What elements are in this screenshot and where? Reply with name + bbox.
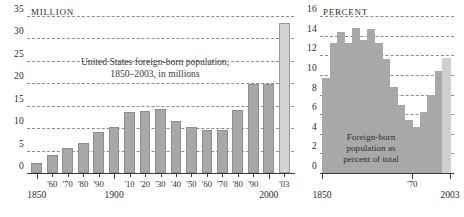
left-tick-'80 (238, 173, 239, 177)
bar-'90 (248, 84, 259, 173)
left-y-tick-5: 5 (0, 140, 24, 150)
bar-'03 (279, 23, 290, 173)
right-tick-1850 (322, 173, 323, 179)
left-tick-'70 (68, 173, 69, 177)
left-y-tick-20: 20 (0, 72, 24, 82)
left-tick-'70 (222, 173, 223, 177)
bar-'40 (171, 121, 182, 173)
bar-'50 (186, 127, 197, 173)
left-y-tick-30: 30 (0, 27, 24, 37)
bar-'90 (93, 132, 104, 173)
right-chart-caption-line3: percent of total (330, 154, 412, 165)
left-tick-'20 (145, 173, 146, 177)
left-y-tick-15: 15 (0, 95, 24, 105)
bar-1850 (31, 163, 42, 173)
chart-foreign-born-millions: MILLION 05101520253035 United States for… (0, 0, 300, 217)
right-chart-caption-line1: Foreign-born (330, 132, 412, 143)
right-y-tick-14: 14 (300, 25, 317, 35)
left-tick-'03 (284, 173, 285, 177)
chart-foreign-born-percent: PERCENT 0246810121416 Foreign-born popul… (300, 0, 459, 217)
right-x-label-'70: '70 (394, 180, 430, 189)
bar-'70 (217, 130, 228, 173)
right-chart-caption-line2: population as (330, 143, 412, 154)
left-y-tick-0: 0 (0, 162, 24, 172)
bar-1900 (109, 127, 120, 173)
bar-'20 (140, 111, 151, 173)
left-chart-plot-area (29, 16, 292, 173)
right-chart-caption: Foreign-born population as percent of to… (330, 132, 412, 165)
bar-'60 (47, 155, 58, 173)
right-x-label-2003: 2003 (432, 190, 464, 200)
right-x-label-1850: 1850 (304, 190, 340, 200)
bar-'60 (202, 130, 213, 174)
left-tick-2000 (269, 173, 270, 179)
left-x-label-'03: '03 (266, 180, 302, 189)
bar-'10 (124, 112, 135, 173)
left-x-label-1900: 1900 (96, 190, 132, 200)
left-x-label-2000: 2000 (251, 190, 287, 200)
left-tick-'50 (191, 173, 192, 177)
left-tick-'40 (176, 173, 177, 177)
left-y-tick-10: 10 (0, 117, 24, 127)
right-y-tick-10: 10 (300, 64, 317, 74)
left-tick-'80 (83, 173, 84, 177)
left-tick-'10 (130, 173, 131, 177)
bar-2000 (263, 84, 274, 173)
right-chart-x-axis-line (320, 173, 454, 174)
left-tick-'60 (52, 173, 53, 177)
left-tick-'90 (99, 173, 100, 177)
bar-'80 (232, 110, 243, 173)
left-y-tick-25: 25 (0, 50, 24, 60)
left-tick-1850 (37, 173, 38, 179)
bar-'70 (62, 148, 73, 173)
right-y-tick-0: 0 (300, 162, 317, 172)
bar-'80 (78, 143, 89, 173)
right-y-tick-8: 8 (300, 84, 317, 94)
right-y-tick-6: 6 (300, 103, 317, 113)
right-y-tick-12: 12 (300, 44, 317, 54)
pct-bar-2003 (442, 58, 450, 173)
right-y-tick-2: 2 (300, 142, 317, 152)
right-y-tick-16: 16 (300, 5, 317, 15)
left-tick-1900 (114, 173, 115, 179)
right-y-tick-4: 4 (300, 123, 317, 133)
left-x-label-1850: 1850 (19, 190, 55, 200)
left-tick-'60 (207, 173, 208, 177)
left-y-tick-35: 35 (0, 5, 24, 15)
bar-'30 (155, 109, 166, 173)
left-tick-'90 (253, 173, 254, 177)
right-tick-2003 (450, 173, 451, 179)
left-tick-'30 (161, 173, 162, 177)
